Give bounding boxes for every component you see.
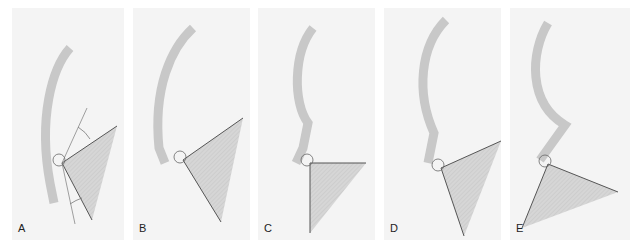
panel-e: E: [510, 8, 630, 240]
spine-curve: [296, 28, 313, 163]
spine-angle-illustration: [258, 8, 375, 240]
spine-angle-illustration: [510, 8, 630, 240]
panel-label: E: [516, 222, 523, 234]
angle-wedge: [183, 118, 243, 222]
panel-a: A: [12, 8, 124, 240]
panel-d: D: [384, 8, 501, 240]
angle-wedge: [441, 141, 501, 236]
angle-arc-icon: [70, 198, 82, 204]
panel-label: A: [18, 222, 25, 234]
spine-angle-illustration: [384, 8, 501, 240]
spine-curve: [423, 20, 446, 163]
pivot-circle-icon: [174, 151, 186, 163]
spine-angle-illustration: [12, 8, 124, 240]
pivot-circle-icon: [432, 159, 444, 171]
panel-label: B: [139, 222, 146, 234]
panel-c: C: [258, 8, 375, 240]
panel-b: B: [133, 8, 250, 240]
panel-label: D: [390, 222, 398, 234]
spine-curve: [158, 28, 193, 163]
spine-curve: [535, 23, 565, 160]
spine-curve: [46, 48, 70, 203]
spine-angle-illustration: [133, 8, 250, 240]
pivot-circle-icon: [301, 154, 313, 166]
panel-label: C: [264, 222, 272, 234]
angle-wedge: [62, 126, 117, 220]
angle-wedge: [522, 164, 618, 228]
angle-arc-icon: [78, 127, 90, 139]
angle-wedge: [310, 163, 366, 233]
